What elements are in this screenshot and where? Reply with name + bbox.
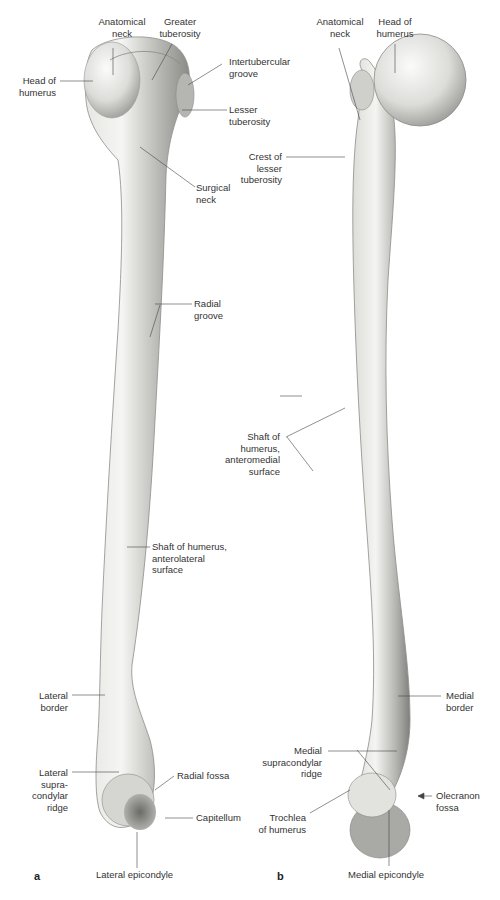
humerus-anterior-view <box>84 37 194 830</box>
label-radial-groove: Radial groove <box>194 298 223 321</box>
label-line: Medial epicondyle <box>348 869 424 881</box>
label-capitellum: Capitellum <box>196 812 241 824</box>
label-lesser-tuberosity: Lesser tuberosity <box>229 104 270 127</box>
label-lateral-epicondyle: Lateral epicondyle <box>96 869 173 881</box>
label-radial-fossa: Radial fossa <box>177 770 229 782</box>
humerus-medial-view <box>348 34 466 858</box>
label-line: fossa <box>436 802 480 814</box>
label-line: groove <box>194 310 223 322</box>
label-line: Shaft of humerus, <box>152 541 227 553</box>
label-line: Head of <box>4 75 56 87</box>
label-head-of-humerus-b: Head of humerus <box>370 16 420 39</box>
label-line: Lateral epicondyle <box>96 869 173 881</box>
label-crest-of-lesser-tuberosity: Crest of lesser tuberosity <box>224 151 282 186</box>
label-shaft-anterolateral: Shaft of humerus, anterolateral surface <box>152 541 227 576</box>
label-head-of-humerus-a: Head of humerus <box>4 75 56 98</box>
label-line: humerus <box>4 87 56 99</box>
label-line: neck <box>92 28 152 40</box>
label-anatomical-neck-b: Anatomical neck <box>310 16 370 39</box>
label-line: humerus <box>370 28 420 40</box>
label-medial-border: Medial border <box>446 690 474 713</box>
label-medial-epicondyle: Medial epicondyle <box>348 869 424 881</box>
label-line: Anatomical <box>92 16 152 28</box>
label-line: border <box>10 702 68 714</box>
label-line: anterolateral <box>152 553 227 565</box>
label-olecranon-fossa: Olecranon fossa <box>436 790 480 813</box>
label-line: border <box>446 702 474 714</box>
label-line: Olecranon <box>436 790 480 802</box>
label-line: Intertubercular <box>229 56 290 68</box>
label-lateral-border: Lateral border <box>10 690 68 713</box>
label-line: neck <box>310 28 370 40</box>
label-lateral-supracondylar-ridge: Lateral supra- condylar ridge <box>10 767 68 813</box>
label-line: tuberosity <box>229 116 270 128</box>
label-line: lesser <box>224 163 282 175</box>
label-line: supracondylar <box>250 757 322 769</box>
label-line: Greater <box>150 16 210 28</box>
label-line: Radial fossa <box>177 770 229 782</box>
label-shaft-anteromedial: Shaft of humerus, anteromedial surface <box>210 431 280 477</box>
label-line: tuberosity <box>150 28 210 40</box>
label-line: groove <box>229 68 290 80</box>
label-line: Shaft of <box>210 431 280 443</box>
label-line: Medial <box>250 745 322 757</box>
label-trochlea-of-humerus: Trochlea of humerus <box>246 812 306 835</box>
label-line: surface <box>152 564 227 576</box>
label-line: supra- <box>10 779 68 791</box>
label-line: Capitellum <box>196 812 241 824</box>
label-line: humerus, <box>210 443 280 455</box>
label-line: Medial <box>446 690 474 702</box>
label-line: Lateral <box>10 690 68 702</box>
label-line: Head of <box>370 16 420 28</box>
label-line: tuberosity <box>224 174 282 186</box>
label-line: anteromedial <box>210 454 280 466</box>
label-greater-tuberosity: Greater tuberosity <box>150 16 210 39</box>
label-line: neck <box>196 194 230 206</box>
label-line: Crest of <box>224 151 282 163</box>
label-line: condylar <box>10 790 68 802</box>
label-line: ridge <box>250 768 322 780</box>
label-line: surface <box>210 466 280 478</box>
label-line: Lesser <box>229 104 270 116</box>
panel-letter-b: b <box>277 870 284 882</box>
label-medial-supracondylar-ridge: Medial supracondylar ridge <box>250 745 322 780</box>
label-line: of humerus <box>246 824 306 836</box>
label-line: Anatomical <box>310 16 370 28</box>
label-line: Radial <box>194 298 223 310</box>
panel-letter-a: a <box>34 870 40 882</box>
label-line: Trochlea <box>246 812 306 824</box>
label-intertubercular-groove: Intertubercular groove <box>229 56 290 79</box>
label-anatomical-neck-a: Anatomical neck <box>92 16 152 39</box>
label-line: Lateral <box>10 767 68 779</box>
label-line: ridge <box>10 802 68 814</box>
